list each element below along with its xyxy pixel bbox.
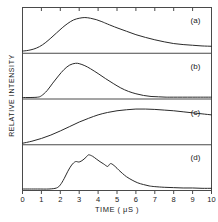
- panel-label-c: (c): [191, 108, 201, 117]
- curve-c: [23, 109, 212, 143]
- x-axis-label: TIME ( μS ): [22, 205, 212, 214]
- x-tick-label: 8: [172, 195, 176, 204]
- x-tick-label: 5: [115, 195, 119, 204]
- figure-container: RELATIVE INTENSITY 012345678910(a)(b)(c)…: [0, 0, 218, 222]
- x-tick-label: 9: [191, 195, 195, 204]
- panel-label-a: (a): [191, 16, 201, 25]
- x-tick-label: 3: [77, 195, 81, 204]
- curve-b: [23, 63, 212, 97]
- curve-a: [23, 18, 212, 52]
- x-tick-label: 10: [207, 195, 215, 204]
- panel-label-b: (b): [191, 62, 201, 71]
- x-tick-label: 7: [153, 195, 157, 204]
- x-tick-label: 6: [134, 195, 138, 204]
- curve-d: [23, 155, 212, 189]
- panel-label-d: (d): [191, 153, 201, 162]
- plot-area: 012345678910(a)(b)(c)(d): [0, 0, 218, 222]
- x-tick-label: 4: [96, 195, 100, 204]
- x-tick-label: 2: [58, 195, 62, 204]
- x-tick-label: 1: [39, 195, 43, 204]
- x-tick-label: 0: [20, 195, 24, 204]
